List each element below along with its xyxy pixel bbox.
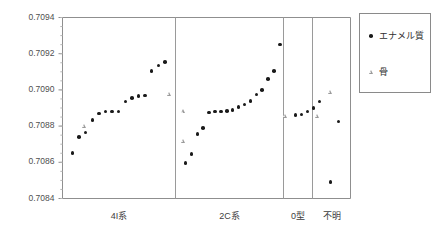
triangle-inner [167, 93, 169, 95]
bone-data-point [167, 92, 171, 96]
enamel-data-point [201, 126, 205, 130]
triangle-inner [328, 91, 330, 93]
enamel-data-point [130, 96, 134, 100]
legend-item-1: エナメル質 [366, 29, 424, 42]
legend-label: 骨 [379, 65, 388, 78]
triangle-inner [181, 140, 183, 142]
open-triangle-marker-icon [366, 67, 376, 77]
bone-data-point [181, 109, 185, 113]
enamel-data-point [225, 109, 229, 113]
bone-data-point [315, 114, 319, 118]
bone-data-point [328, 90, 332, 94]
enamel-data-point [97, 112, 101, 116]
group-label-4: 不明 [292, 211, 372, 222]
bone-data-point [283, 114, 287, 118]
enamel-data-point [266, 77, 270, 81]
triangle-inner [82, 125, 84, 127]
filled-circle-marker-icon [366, 31, 376, 41]
enamel-data-point [312, 106, 316, 110]
enamel-data-point [91, 118, 95, 122]
legend-label: エナメル質 [379, 29, 424, 42]
bone-data-point [82, 124, 86, 128]
enamel-data-point [272, 69, 276, 73]
enamel-data-point [163, 60, 167, 64]
legend-item-2: 骨 [366, 65, 388, 78]
bone-data-point [181, 139, 185, 143]
enamel-data-point [143, 94, 147, 98]
enamel-data-point [249, 99, 253, 103]
triangle-inner [181, 111, 183, 113]
triangle-inner [315, 115, 317, 117]
legend [359, 13, 431, 93]
group-label-1: 4I系 [79, 211, 159, 222]
triangle-inner [283, 115, 285, 117]
enamel-data-point [190, 152, 194, 156]
enamel-data-point [260, 88, 264, 92]
enamel-data-point [77, 135, 81, 139]
enamel-data-point [196, 132, 200, 136]
strontium-isotope-scatter-figure: Sr同位体比 87Sr/86Sr 0.70940.70920.70900.708… [0, 0, 435, 242]
